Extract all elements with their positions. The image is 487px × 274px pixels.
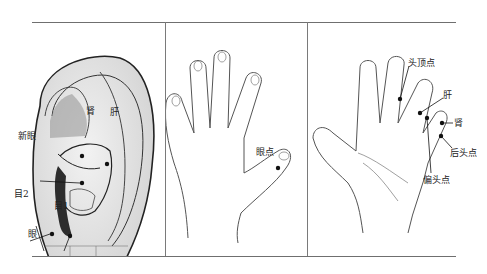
hand-back-panel: 眼点	[166, 23, 307, 256]
ear-point-liver-label: 肝	[110, 107, 119, 117]
ear-point-eye1-label: 目1	[54, 201, 69, 211]
palm-head-top-point-label: 头顶点	[408, 58, 435, 68]
hand-palm-illustration	[308, 23, 487, 256]
palm-kidney-point-label: 肾	[454, 118, 463, 128]
hand-palm-panel: 头顶点 肝 肾 后头点 偏头点	[308, 23, 487, 256]
figure-frame: 肾 肝 新眼 目2 目1 眼 眼点	[0, 0, 487, 274]
palm-back-head-point-label: 后头点	[450, 148, 477, 158]
hand-back-illustration	[166, 23, 307, 256]
ear-point-kidney-label: 肾	[86, 106, 95, 116]
hand-back-eye-point-label: 眼点	[256, 147, 274, 157]
ear-panel: 肾 肝 新眼 目2 目1 眼	[0, 23, 165, 256]
ear-point-eye-label: 眼	[28, 229, 37, 239]
bottom-rule	[32, 256, 456, 257]
palm-side-head-point-label: 偏头点	[423, 175, 450, 185]
palm-liver-point-label: 肝	[443, 90, 452, 100]
ear-point-new-eye-label: 新眼	[18, 131, 36, 141]
ear-point-eye2-label: 目2	[14, 189, 29, 199]
